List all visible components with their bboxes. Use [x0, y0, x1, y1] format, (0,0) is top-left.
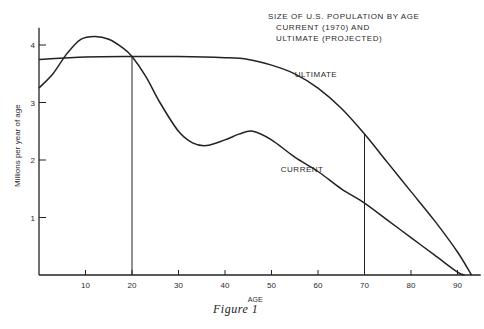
x-tick-label: 50	[267, 281, 276, 290]
y-tick-label: 2	[31, 156, 36, 165]
plot-area: 1020304050607080901234AGEMillions per ye…	[0, 0, 484, 329]
x-tick-label: 90	[453, 281, 462, 290]
label-ultimate: ULTIMATE	[295, 70, 337, 79]
series-line-ultimate	[39, 56, 472, 275]
x-tick-label: 70	[360, 281, 369, 290]
chart-figure: SIZE OF U.S. POPULATION BY AGE CURRENT (…	[0, 0, 484, 329]
x-tick-label: 80	[407, 281, 416, 290]
figure-caption: Figure 1	[213, 302, 258, 317]
y-tick-label: 3	[31, 99, 36, 108]
label-current: CURRENT	[281, 165, 324, 174]
x-tick-label: 10	[81, 281, 90, 290]
series-labels: ULTIMATECURRENT	[281, 70, 337, 174]
x-tick-label: 20	[128, 281, 137, 290]
y-axis-label: Millions per year of age	[13, 104, 22, 187]
x-tick-label: 60	[314, 281, 323, 290]
x-tick-label: 40	[221, 281, 230, 290]
axes: 1020304050607080901234AGEMillions per ye…	[13, 28, 481, 303]
y-tick-label: 1	[31, 214, 36, 223]
series-line-current	[39, 36, 465, 275]
x-tick-label: 30	[174, 281, 183, 290]
y-tick-label: 4	[31, 41, 36, 50]
series-lines	[39, 36, 472, 275]
